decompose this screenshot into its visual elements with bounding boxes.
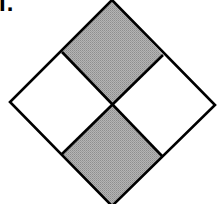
- diamond-figure: [0, 0, 217, 204]
